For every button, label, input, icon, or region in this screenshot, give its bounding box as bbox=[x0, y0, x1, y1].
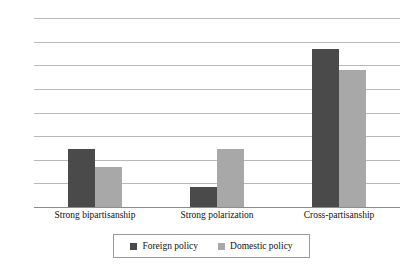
legend-swatch-icon bbox=[218, 243, 225, 250]
legend-label: Foreign policy bbox=[142, 241, 198, 251]
bar-strong-bipartisanship-domestic-policy bbox=[95, 167, 122, 207]
legend-item-foreign-policy[interactable]: Foreign policy bbox=[130, 241, 198, 251]
gridline-70 bbox=[34, 42, 400, 43]
gridline-80 bbox=[34, 18, 400, 19]
category-label-strong-bipartisanship: Strong bipartisanship bbox=[54, 210, 135, 220]
legend-label: Domestic policy bbox=[230, 241, 293, 251]
gridline-60 bbox=[34, 65, 400, 66]
category-label-cross-partisanship: Cross-partisanship bbox=[304, 210, 375, 220]
legend-swatch-icon bbox=[130, 243, 137, 250]
category-label-strong-polarization: Strong polarization bbox=[180, 210, 253, 220]
bar-strong-polarization-foreign-policy bbox=[190, 187, 217, 207]
bar-strong-bipartisanship-foreign-policy bbox=[68, 149, 95, 207]
bar-cross-partisanship-domestic-policy bbox=[339, 70, 366, 207]
chart-legend: Foreign policyDomestic policy bbox=[113, 234, 310, 258]
legend-item-domestic-policy[interactable]: Domestic policy bbox=[218, 241, 293, 251]
plot-area: 0%10%20%30%40%50%60%70%80% bbox=[34, 18, 400, 207]
grouped-bar-chart: 0%10%20%30%40%50%60%70%80% Strong bipart… bbox=[0, 0, 410, 268]
bar-cross-partisanship-foreign-policy bbox=[312, 49, 339, 207]
bar-strong-polarization-domestic-policy bbox=[217, 149, 244, 207]
gridline-0 bbox=[34, 207, 400, 208]
